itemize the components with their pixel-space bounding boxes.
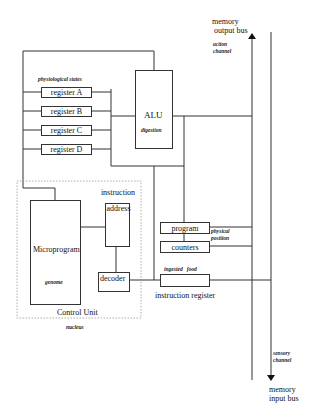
sensory-channel-note: sensory channel (273, 350, 291, 363)
nucleus-note: nucleus (66, 324, 84, 331)
register-b: register B (41, 106, 92, 117)
decoder-box: decoder (98, 272, 130, 292)
input-bus-label: memory input bus (269, 385, 299, 403)
register-d: register D (41, 144, 92, 155)
instruction-address-label: instruction (99, 188, 137, 197)
alu-label: ALU (144, 111, 163, 120)
ingested-food-note: ingested food (164, 266, 197, 273)
register-c-label: register C (51, 126, 82, 135)
output-bus-label-line2: output bus (214, 26, 248, 35)
instruction-address-line1: instruction (99, 188, 137, 197)
register-c: register C (41, 125, 92, 136)
instruction-address-line2: address (106, 204, 131, 213)
physical-position-note: physical position (211, 228, 230, 241)
microprogram-box: Microprogram genome (30, 200, 81, 305)
input-bus-label-line1: memory (269, 385, 299, 394)
instruction-register-box (160, 274, 210, 287)
sensory-note-line1: sensory (273, 350, 291, 357)
physiological-states-note: physiological states (38, 76, 82, 83)
action-note-line2: channel (213, 48, 231, 55)
counters-label: counters (171, 243, 198, 252)
register-d-label: register D (51, 145, 83, 154)
program-box: program (160, 222, 210, 234)
output-bus-label: memory output bus (212, 17, 248, 35)
instruction-address-box: address (105, 203, 130, 247)
register-a-label: register A (51, 88, 82, 97)
action-channel-note: action channel (213, 41, 231, 54)
instruction-register-label: instruction register (155, 291, 215, 300)
counters-box: counters (160, 241, 210, 253)
register-b-label: register B (51, 107, 82, 116)
physical-note-line1: physical (211, 228, 230, 235)
output-bus-label-line1: memory (212, 17, 248, 26)
input-bus-label-line2: input bus (269, 394, 299, 403)
microprogram-label: Microprogram (33, 245, 80, 254)
genome-note: genome (45, 279, 63, 286)
control-unit-label: Control Unit (57, 308, 98, 317)
register-a: register A (41, 87, 92, 98)
sensory-note-line2: channel (273, 357, 291, 364)
program-label: program (171, 224, 198, 233)
position-note-line2: position (211, 235, 230, 242)
alu-box: ALU digestion (135, 70, 173, 149)
digestion-note: digestion (141, 127, 161, 134)
decoder-label: decoder (100, 274, 125, 283)
